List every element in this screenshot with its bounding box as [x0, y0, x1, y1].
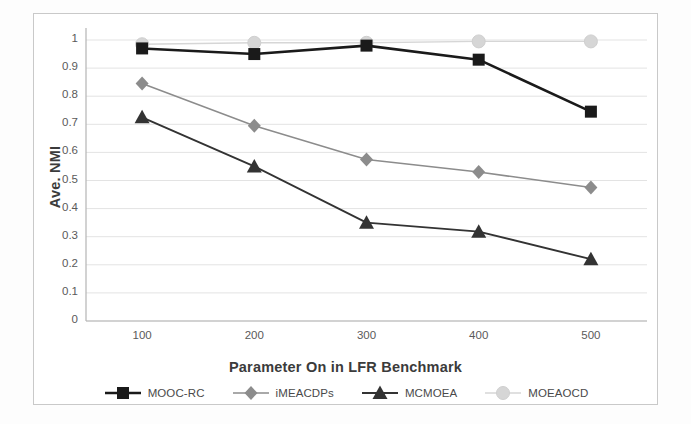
legend-marker-circle-icon — [483, 385, 523, 401]
legend-label: iMEACDPs — [276, 387, 334, 399]
x-axis-title: Parameter On in LFR Benchmark — [34, 359, 657, 375]
legend-item-MOOC-RC[interactable]: MOOC-RC — [103, 385, 205, 401]
y-tick-label: 0.8 — [34, 88, 78, 100]
y-tick-label: 0.1 — [34, 285, 78, 297]
series-MOOC-RC — [136, 40, 597, 118]
line-chart-plot — [34, 14, 657, 404]
chart-frame: Ave. NMI Parameter On in LFR Benchmark 0… — [33, 13, 658, 405]
y-tick-label: 0.3 — [34, 229, 78, 241]
legend-marker-square-icon — [103, 385, 143, 401]
legend-marker-diamond-icon — [231, 385, 271, 401]
y-tick-label: 1 — [34, 32, 78, 44]
x-tick-label: 100 — [118, 329, 166, 341]
y-tick-label: 0.5 — [34, 173, 78, 185]
chart-page: Ave. NMI Parameter On in LFR Benchmark 0… — [0, 0, 691, 424]
y-tick-label: 0 — [34, 313, 78, 325]
y-tick-label: 0.9 — [34, 60, 78, 72]
y-tick-label: 0.6 — [34, 144, 78, 156]
legend-item-MOEAOCD[interactable]: MOEAOCD — [483, 385, 588, 401]
series-iMEACDPs — [136, 77, 598, 195]
legend-marker-triangle-icon — [360, 385, 400, 401]
legend-label: MOEAOCD — [528, 387, 588, 399]
legend-item-MCMOEA[interactable]: MCMOEA — [360, 385, 457, 401]
chart-legend: MOOC-RCiMEACDPsMCMOEAMOEAOCD — [34, 385, 657, 401]
x-tick-label: 200 — [230, 329, 278, 341]
x-tick-label: 400 — [455, 329, 503, 341]
x-tick-label: 500 — [567, 329, 615, 341]
legend-label: MOOC-RC — [148, 387, 205, 399]
x-tick-label: 300 — [343, 329, 391, 341]
y-tick-label: 0.2 — [34, 257, 78, 269]
y-tick-label: 0.7 — [34, 116, 78, 128]
y-tick-label: 0.4 — [34, 201, 78, 213]
legend-item-iMEACDPs[interactable]: iMEACDPs — [231, 385, 334, 401]
series-MCMOEA — [135, 110, 599, 265]
legend-label: MCMOEA — [405, 387, 457, 399]
